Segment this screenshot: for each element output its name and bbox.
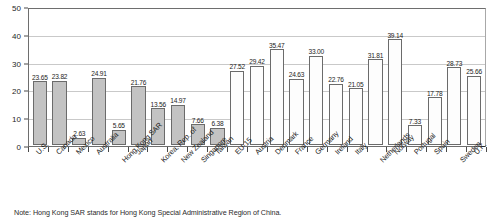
bar-value-label: 24.63 — [289, 71, 305, 78]
bar-slot: 23.65 — [30, 10, 50, 145]
bar-value-label: 33.00 — [308, 48, 324, 55]
bar[interactable] — [33, 81, 47, 145]
bar-slot: 2.63 — [69, 10, 89, 145]
bar-value-label: 31.81 — [368, 52, 384, 59]
bar[interactable] — [309, 56, 323, 145]
bar-slot: 5.65 — [109, 10, 129, 145]
y-tick-label: 10 — [12, 115, 21, 124]
bar-value-label: 7.33 — [409, 118, 421, 125]
bar-value-label: 13.56 — [151, 101, 167, 108]
bar-slot: 21.76 — [129, 10, 149, 145]
bar[interactable] — [447, 67, 461, 145]
bar-value-label: 5.65 — [113, 122, 125, 129]
bar-chart: 01020304050 23.6523.822.6324.915.6521.76… — [0, 0, 494, 222]
bar-slot: 27.52 — [227, 10, 247, 145]
bar-slot: 35.47 — [267, 10, 287, 145]
bar-slot: 29.42 — [247, 10, 267, 145]
bar-value-label: 39.14 — [387, 32, 403, 39]
bar-slot: 33.00 — [306, 10, 326, 145]
bar-value-label: 25.66 — [466, 68, 482, 75]
bar-value-label: 7.66 — [192, 117, 204, 124]
chart-note: Note: Hong Kong SAR stands for Hong Kong… — [14, 208, 281, 217]
bar-slot: 22.76 — [326, 10, 346, 145]
bar-slot: 28.73 — [445, 10, 465, 145]
bar-value-label: 29.42 — [249, 58, 265, 65]
bar-value-label: 17.78 — [427, 90, 443, 97]
bar[interactable] — [467, 76, 481, 145]
bar-slot: 7.33 — [405, 10, 425, 145]
bar-slot: 39.14 — [385, 10, 405, 145]
bar[interactable] — [388, 39, 402, 145]
bar[interactable] — [230, 71, 244, 145]
bar-value-label: 24.91 — [91, 70, 107, 77]
bar-value-label: 35.47 — [269, 42, 285, 49]
bars-layer: 23.6523.822.6324.915.6521.7613.5614.977.… — [30, 10, 484, 145]
bar-slot: 25.66 — [464, 10, 484, 145]
bar-value-label: 27.52 — [229, 63, 245, 70]
bar[interactable] — [368, 59, 382, 145]
bar-value-label: 23.82 — [52, 73, 68, 80]
bar-slot: 24.91 — [89, 10, 109, 145]
bar-slot: 23.82 — [50, 10, 70, 145]
bar-slot: 24.63 — [287, 10, 307, 145]
bar-slot: 21.05 — [346, 10, 366, 145]
y-axis: 01020304050 — [0, 8, 28, 147]
y-tick-label: 40 — [12, 31, 21, 40]
bar-slot: 17.78 — [425, 10, 445, 145]
plot-area-wrapper: 23.6523.822.6324.915.6521.7613.5614.977.… — [28, 8, 486, 147]
bar-value-label: 23.65 — [32, 74, 48, 81]
y-tick-label: 20 — [12, 87, 21, 96]
bar-value-label: 21.05 — [348, 81, 364, 88]
bar-slot: 6.38 — [208, 10, 228, 145]
y-tick-label: 0 — [17, 143, 21, 152]
bar-slot: 31.81 — [366, 10, 386, 145]
bar[interactable] — [92, 78, 106, 145]
bar-value-label: 6.38 — [211, 120, 223, 127]
y-tick-label: 50 — [12, 4, 21, 13]
bar-value-label: 14.97 — [170, 97, 186, 104]
bar-slot: 14.97 — [168, 10, 188, 145]
bar-value-label: 21.76 — [131, 79, 147, 86]
plot-area: 23.6523.822.6324.915.6521.7613.5614.977.… — [28, 8, 486, 147]
bar[interactable] — [52, 81, 66, 145]
x-axis-labels: U.S.CanadaMexicoAustraliaHong Kong SARJa… — [28, 150, 486, 210]
bar[interactable] — [250, 66, 264, 145]
bar[interactable] — [270, 49, 284, 145]
bar-value-label: 28.73 — [447, 60, 463, 67]
bar-value-label: 22.76 — [328, 76, 344, 83]
y-tick-label: 30 — [12, 59, 21, 68]
